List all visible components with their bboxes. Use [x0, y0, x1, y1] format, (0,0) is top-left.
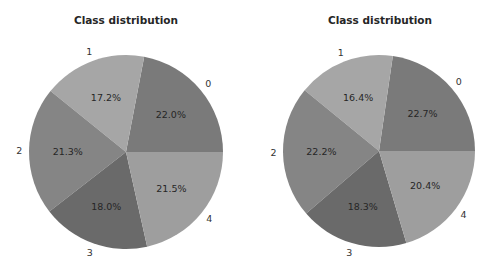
slice-category-label: 3: [87, 247, 93, 258]
slice-percent-label: 18.3%: [348, 201, 378, 212]
slice-percent-label: 22.7%: [407, 108, 437, 119]
slice-percent-label: 16.4%: [343, 92, 373, 103]
slice-category-label: 3: [346, 247, 352, 258]
slice-category-label: 4: [461, 209, 467, 220]
slice-category-label: 2: [16, 145, 22, 156]
slice-percent-label: 17.2%: [91, 92, 121, 103]
slice-percent-label: 20.4%: [410, 180, 440, 191]
pie-chart-right: Class distribution 22.7%016.4%122.2%218.…: [245, 0, 489, 276]
slice-percent-label: 22.0%: [156, 109, 186, 120]
slice-percent-label: 21.3%: [53, 146, 83, 157]
slice-category-label: 1: [86, 46, 92, 57]
pie-slice-0: [379, 56, 475, 151]
slice-category-label: 4: [206, 213, 212, 224]
slice-percent-label: 22.2%: [306, 146, 336, 157]
slice-percent-label: 21.5%: [156, 183, 186, 194]
pie-right-svg: 22.7%016.4%122.2%218.3%320.4%4: [245, 0, 489, 276]
slice-category-label: 1: [338, 47, 344, 58]
slice-percent-label: 18.0%: [91, 201, 121, 212]
pie-left-svg: 22.0%017.2%121.3%218.0%321.5%4: [0, 0, 245, 276]
pie-chart-left: Class distribution 22.0%017.2%121.3%218.…: [0, 0, 245, 276]
slice-category-label: 0: [456, 76, 462, 87]
slice-category-label: 2: [270, 147, 276, 158]
slice-category-label: 0: [205, 78, 211, 89]
